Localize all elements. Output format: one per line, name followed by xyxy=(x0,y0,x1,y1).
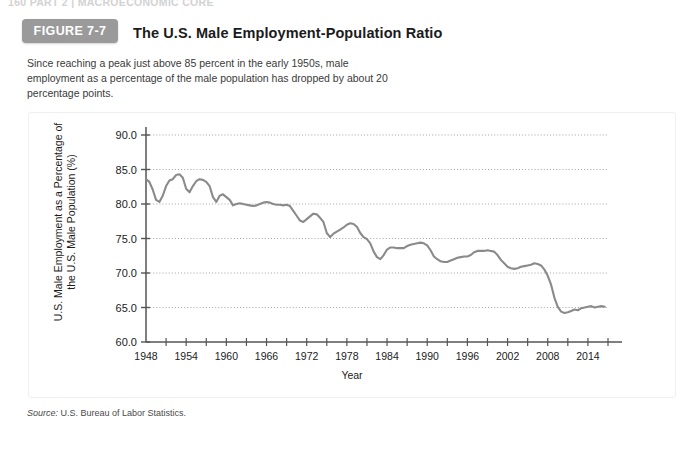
x-tick-label: 1954 xyxy=(174,350,198,362)
chart-card: 60.065.070.075.080.085.090.0194819541960… xyxy=(28,112,676,398)
x-tick-label: 2002 xyxy=(496,350,520,362)
line-chart: 60.065.070.075.080.085.090.0194819541960… xyxy=(29,113,675,397)
x-tick-label: 2014 xyxy=(576,350,600,362)
x-tick-label: 2008 xyxy=(536,350,560,362)
y-axis-title: U.S. Male Employment as a Percentage of … xyxy=(52,122,78,322)
plot-area: 60.065.070.075.080.085.090.0194819541960… xyxy=(29,113,675,397)
y-tick-label: 90.0 xyxy=(116,129,137,141)
figure-page: 160 PART 2 | MACROECONOMIC CORE FIGURE 7… xyxy=(0,0,688,457)
figure-caption: Since reaching a peak just above 85 perc… xyxy=(27,56,407,101)
x-tick-label: 1960 xyxy=(215,350,239,362)
y-tick-label: 75.0 xyxy=(116,233,137,245)
x-tick-label: 1948 xyxy=(134,350,158,362)
x-tick-label: 1990 xyxy=(416,350,440,362)
figure-number-badge: FIGURE 7-7 xyxy=(22,19,118,43)
y-tick-label: 85.0 xyxy=(116,164,137,176)
x-axis-title: Year xyxy=(29,369,675,381)
figure-title: The U.S. Male Employment-Population Rati… xyxy=(133,25,442,41)
x-tick-label: 1978 xyxy=(335,350,359,362)
y-tick-label: 80.0 xyxy=(116,198,137,210)
figure-number-label: FIGURE 7-7 xyxy=(22,19,118,43)
y-tick-label: 70.0 xyxy=(116,267,137,279)
source-note: Source: U.S. Bureau of Labor Statistics. xyxy=(27,408,186,418)
running-head: 160 PART 2 | MACROECONOMIC CORE xyxy=(8,0,608,8)
data-series-line xyxy=(146,174,605,313)
x-tick-label: 1966 xyxy=(255,350,279,362)
x-tick-label: 1984 xyxy=(375,350,399,362)
y-tick-label: 65.0 xyxy=(116,302,137,314)
x-tick-label: 1972 xyxy=(295,350,319,362)
source-prefix: Source: xyxy=(27,408,58,418)
source-text: U.S. Bureau of Labor Statistics. xyxy=(61,408,187,418)
y-tick-label: 60.0 xyxy=(116,336,137,348)
x-tick-label: 1996 xyxy=(456,350,480,362)
